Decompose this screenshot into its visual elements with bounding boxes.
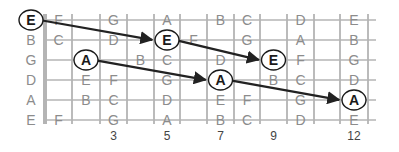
highlighted-note-label: E (26, 12, 35, 28)
fret-number-3: 3 (110, 129, 117, 143)
note-label: A (296, 32, 306, 48)
highlighted-note-e2: E (155, 30, 179, 50)
note-label: D (295, 112, 305, 128)
highlighted-note-label: A (215, 72, 225, 88)
note-label: B (81, 92, 90, 108)
note-label: E (216, 92, 225, 108)
note-label: C (108, 92, 118, 108)
note-label: C (242, 12, 252, 28)
note-label: F (109, 72, 118, 88)
note-label: F (296, 52, 305, 68)
highlighted-note-label: E (269, 52, 278, 68)
open-string-label: D (26, 72, 36, 88)
note-label: F (54, 112, 63, 128)
note-label: C (162, 52, 172, 68)
note-label: B (349, 32, 358, 48)
note-label: E (349, 112, 358, 128)
fret-number-labels: 357912 (110, 129, 361, 143)
note-label: B (216, 12, 225, 28)
note-label: B (269, 72, 278, 88)
note-label: G (108, 112, 119, 128)
fret-number-5: 5 (164, 129, 171, 143)
note-label: A (162, 12, 172, 28)
highlighted-note-label: A (81, 52, 91, 68)
highlighted-note-a1: A (74, 50, 98, 70)
note-label: D (162, 92, 172, 108)
highlighted-note-e1: E (19, 10, 43, 30)
open-string-label: A (26, 92, 36, 108)
note-label: C (242, 112, 252, 128)
note-label: G (242, 32, 253, 48)
note-label: G (349, 52, 360, 68)
note-label: A (162, 112, 172, 128)
highlighted-note-a2: A (209, 70, 233, 90)
note-label: F (243, 92, 252, 108)
note-label: C (53, 32, 63, 48)
fret-number-12: 12 (347, 129, 361, 143)
open-string-label: G (26, 52, 37, 68)
note-label: G (108, 12, 119, 28)
open-string-label: E (26, 112, 35, 128)
fret-number-9: 9 (270, 129, 277, 143)
fret-number-7: 7 (217, 129, 224, 143)
highlighted-note-label: E (162, 32, 171, 48)
note-label: B (216, 112, 225, 128)
note-label: E (349, 12, 358, 28)
note-label: E (81, 72, 90, 88)
note-label: D (215, 52, 225, 68)
note-label: D (295, 12, 305, 28)
highlighted-note-label: A (349, 92, 359, 108)
note-label: C (295, 72, 305, 88)
note-label: D (349, 72, 359, 88)
highlighted-note-a3: A (342, 90, 366, 110)
note-label: B (136, 52, 145, 68)
fretboard-diagram: EBGDAE FGABCDECDFGABBCDFGEFGBCDBCDEFGFGA… (0, 0, 399, 152)
note-label: F (54, 12, 63, 28)
highlighted-note-e3: E (262, 50, 286, 70)
open-string-label: B (26, 32, 35, 48)
